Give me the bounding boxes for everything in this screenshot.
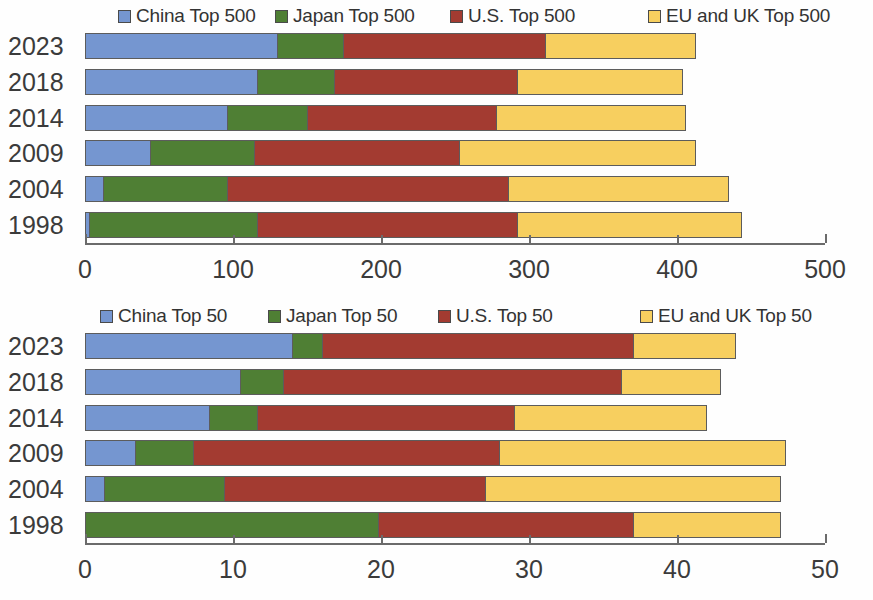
stacked-bar[interactable] — [85, 140, 696, 166]
bar-segment[interactable] — [227, 105, 307, 131]
bar-segment[interactable] — [85, 176, 103, 202]
bar-segment[interactable] — [633, 512, 781, 538]
y-axis-category-label: 2014 — [8, 403, 64, 432]
bar-segment[interactable] — [334, 69, 518, 95]
plot-area-top500: 202320182014200920041998 — [0, 28, 873, 243]
y-axis-category-label: 2023 — [8, 31, 64, 60]
stacked-bar[interactable] — [85, 333, 736, 359]
stacked-bar[interactable] — [85, 69, 683, 95]
bar-segment[interactable] — [496, 105, 685, 131]
bar-row: 2009 — [0, 435, 873, 471]
stacked-bar[interactable] — [85, 405, 707, 431]
y-axis-category-label: 2009 — [8, 139, 64, 168]
legend-item[interactable]: EU and UK Top 50 — [640, 305, 812, 327]
bar-segment[interactable] — [85, 333, 292, 359]
y-axis-category-label: 2018 — [8, 367, 64, 396]
legend-item[interactable]: Japan Top 500 — [275, 5, 415, 27]
y-axis-category-label: 2014 — [8, 103, 64, 132]
legend-label: U.S. Top 50 — [456, 305, 553, 327]
bar-segment[interactable] — [378, 512, 633, 538]
axis-end-cap — [825, 534, 827, 543]
x-axis-tick-label: 200 — [360, 255, 402, 284]
bar-segment[interactable] — [257, 212, 517, 238]
bar-segment[interactable] — [85, 69, 257, 95]
legend-swatch-icon — [648, 10, 661, 23]
x-axis-tick-label: 300 — [508, 255, 550, 284]
bar-segment[interactable] — [499, 440, 786, 466]
bar-segment[interactable] — [193, 440, 499, 466]
bar-segment[interactable] — [224, 476, 484, 502]
bar-row: 2023 — [0, 328, 873, 364]
legend-item[interactable]: U.S. Top 500 — [450, 5, 575, 27]
x-axis-line — [85, 543, 825, 545]
legend-label: U.S. Top 500 — [468, 5, 575, 27]
stacked-bar[interactable] — [85, 33, 696, 59]
stacked-bar[interactable] — [85, 105, 686, 131]
bar-row: 2014 — [0, 400, 873, 436]
bar-segment[interactable] — [85, 33, 277, 59]
legend-label: EU and UK Top 50 — [658, 305, 812, 327]
bar-segment[interactable] — [517, 69, 683, 95]
bar-segment[interactable] — [322, 333, 633, 359]
bar-segment[interactable] — [85, 369, 240, 395]
bar-segment[interactable] — [514, 405, 706, 431]
y-axis-category-label: 2004 — [8, 475, 64, 504]
bar-segment[interactable] — [257, 69, 334, 95]
bar-segment[interactable] — [343, 33, 546, 59]
bar-row: 1998 — [0, 507, 873, 543]
axis-end-cap — [85, 534, 87, 543]
bar-segment[interactable] — [283, 369, 620, 395]
x-axis-tick-label: 30 — [515, 555, 543, 584]
x-axis-tick-label: 100 — [212, 255, 254, 284]
y-axis-category-label: 2009 — [8, 439, 64, 468]
x-axis-top50: 01020304050 — [0, 543, 873, 599]
bar-segment[interactable] — [485, 476, 781, 502]
bar-segment[interactable] — [307, 105, 496, 131]
bar-segment[interactable] — [104, 476, 224, 502]
bar-segment[interactable] — [150, 140, 254, 166]
bar-segment[interactable] — [103, 176, 227, 202]
bar-row: 2023 — [0, 28, 873, 64]
legend-label: EU and UK Top 500 — [666, 5, 830, 27]
bar-segment[interactable] — [257, 405, 515, 431]
bar-segment[interactable] — [85, 512, 378, 538]
bar-segment[interactable] — [621, 369, 722, 395]
stacked-bar[interactable] — [85, 369, 721, 395]
bar-segment[interactable] — [227, 176, 508, 202]
x-axis-tick — [677, 535, 679, 543]
bar-segment[interactable] — [633, 333, 737, 359]
x-axis-tick — [381, 535, 383, 543]
bar-segment[interactable] — [89, 212, 256, 238]
bar-segment[interactable] — [85, 405, 209, 431]
bar-segment[interactable] — [277, 33, 342, 59]
bar-segment[interactable] — [85, 476, 104, 502]
bar-segment[interactable] — [85, 105, 227, 131]
chart-panel-top500: China Top 500Japan Top 500U.S. Top 500EU… — [0, 0, 873, 300]
legend-item[interactable]: U.S. Top 50 — [438, 305, 553, 327]
legend-swatch-icon — [640, 310, 653, 323]
legend-top50: China Top 50Japan Top 50U.S. Top 50EU an… — [0, 304, 873, 328]
bar-segment[interactable] — [545, 33, 696, 59]
legend-swatch-icon — [100, 310, 113, 323]
bar-segment[interactable] — [135, 440, 193, 466]
stacked-bar[interactable] — [85, 176, 729, 202]
x-axis-tick-label: 500 — [804, 255, 846, 284]
bar-segment[interactable] — [209, 405, 256, 431]
bar-segment[interactable] — [85, 440, 135, 466]
bar-segment[interactable] — [85, 140, 150, 166]
stacked-bar[interactable] — [85, 440, 787, 466]
legend-item[interactable]: China Top 500 — [118, 5, 256, 27]
bar-segment[interactable] — [508, 176, 729, 202]
x-axis-tick-label: 20 — [367, 555, 395, 584]
bar-segment[interactable] — [292, 333, 322, 359]
stacked-bar[interactable] — [85, 476, 781, 502]
legend-item[interactable]: Japan Top 50 — [268, 305, 397, 327]
bar-segment[interactable] — [517, 212, 742, 238]
bar-segment[interactable] — [240, 369, 283, 395]
x-axis-line — [85, 243, 825, 245]
bar-segment[interactable] — [254, 140, 460, 166]
stacked-bar[interactable] — [85, 212, 742, 238]
legend-item[interactable]: China Top 50 — [100, 305, 227, 327]
legend-item[interactable]: EU and UK Top 500 — [648, 5, 830, 27]
bar-segment[interactable] — [459, 140, 696, 166]
